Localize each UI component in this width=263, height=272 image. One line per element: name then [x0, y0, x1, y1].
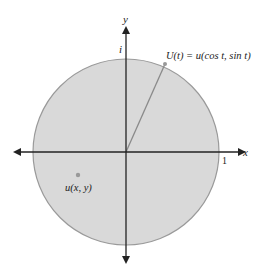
x-axis-label: x [242, 146, 248, 158]
boundary-point-label: U(t) = u(cos t, sin t) [166, 50, 251, 62]
interior-point [76, 173, 80, 177]
y-tick-label: i [119, 43, 122, 55]
unit-disk-diagram: y i x 1 U(t) = u(cos t, sin t) u(x, y) [0, 0, 263, 272]
y-axis-label: y [122, 13, 128, 25]
boundary-point [163, 62, 167, 66]
x-tick-label: 1 [222, 155, 227, 166]
interior-point-label: u(x, y) [65, 182, 92, 194]
